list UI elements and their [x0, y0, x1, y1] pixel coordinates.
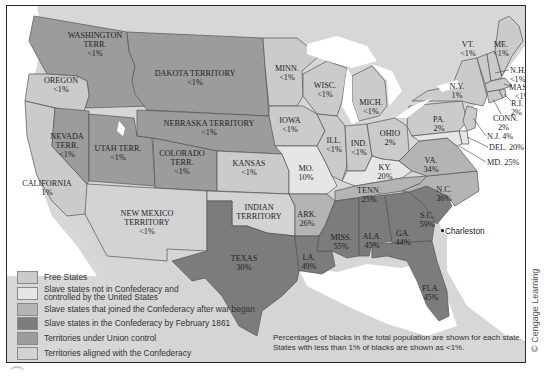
- label-georgia: GA. 44%: [395, 229, 410, 247]
- legend-swatch: [17, 303, 38, 316]
- label-alabama: ALA. 45%: [363, 232, 382, 250]
- label-missouri: MO. 10%: [298, 164, 313, 182]
- label-virginia: VA. 34%: [423, 156, 438, 174]
- label-nebraska: NEBRASKA TERRITORY <1%: [164, 119, 255, 137]
- label-dakota: DAKOTA TERRITORY <1%: [155, 69, 236, 87]
- label-utah: UTAH TERR. <1%: [95, 144, 142, 162]
- label-wisconsin: WISC. <1%: [314, 81, 337, 99]
- map-frame: WASHINGTON TERR. <1% OREGON <1% DAKOTA T…: [6, 5, 526, 363]
- legend-swatch: [17, 317, 38, 330]
- label-pennsylvania: PA. 2%: [433, 115, 445, 133]
- legend-swatch: [17, 347, 38, 360]
- legend-item-territories-union: Territories under Union control: [17, 331, 277, 346]
- legend-swatch: [17, 271, 38, 284]
- label-california: CALIFORNIA 1%: [22, 179, 72, 197]
- corner-decoration: [10, 366, 24, 376]
- label-tennessee: TENN. 25%: [357, 186, 381, 204]
- legend-swatch: [17, 287, 38, 300]
- label-kansas: KANSAS <1%: [233, 159, 266, 177]
- label-louisiana: LA. 49%: [301, 253, 316, 271]
- label-arkansas: ARK. 26%: [297, 210, 316, 228]
- label-nevada: NEVADA TERR. <1%: [50, 132, 84, 159]
- label-iowa: IOWA <1%: [279, 116, 300, 134]
- label-michigan: MICH. <1%: [359, 98, 382, 116]
- legend: Free States Slave states not in Confeder…: [17, 270, 277, 360]
- label-ohio: OHIO 2%: [380, 129, 400, 147]
- label-new-york: N.Y. 1%: [450, 82, 465, 100]
- copyright-credit: © Cengage Learning: [530, 269, 540, 352]
- label-indian-territory: INDIAN TERRITORY: [236, 203, 281, 221]
- label-minnesota: MINN. <1%: [275, 64, 299, 82]
- label-florida: FLA. 45%: [422, 284, 440, 302]
- label-new-hampshire: N.H. <1%: [510, 66, 526, 84]
- legend-item-free-states: Free States: [17, 270, 277, 285]
- label-maine: ME. <1%: [493, 40, 509, 58]
- label-colorado: COLORADO TERR. <1%: [159, 149, 205, 176]
- label-washington: WASHINGTON TERR. <1%: [68, 31, 122, 58]
- label-delaware: DEL. 20%: [489, 143, 524, 152]
- label-mississippi: MISS. 55%: [330, 233, 351, 251]
- map-note: Percentages of blacks in the total popul…: [273, 333, 522, 353]
- legend-item-joined-after-war: Slave states that joined the Confederacy…: [17, 302, 277, 317]
- label-kentucky: KY. 20%: [377, 163, 392, 181]
- label-oregon: OREGON <1%: [44, 76, 78, 94]
- legend-item-confederacy-feb-1861: Slave states in the Confederacy by Febru…: [17, 316, 277, 331]
- legend-item-territories-confederacy: Territories aligned with the Confederacy: [17, 346, 277, 361]
- label-vermont: VT. <1%: [460, 40, 476, 58]
- legend-swatch: [17, 332, 38, 345]
- label-indiana: IND. <1%: [351, 139, 368, 157]
- label-new-mexico: NEW MEXICO TERRITORY <1%: [121, 209, 174, 236]
- label-maryland: MD. 25%: [487, 158, 519, 167]
- legend-item-slave-not-confederacy: Slave states not in Confederacy and cont…: [17, 285, 277, 302]
- label-connecticut: CONN. 2%: [493, 114, 518, 132]
- label-north-carolina: N.C. 36%: [436, 185, 451, 203]
- charleston-marker: [441, 229, 444, 232]
- label-south-carolina: S.C. 59%: [419, 211, 434, 229]
- label-charleston: Charleston: [445, 227, 485, 236]
- label-new-jersey: N.J. 4%: [487, 132, 513, 141]
- label-illinois: ILL. <1%: [326, 136, 342, 154]
